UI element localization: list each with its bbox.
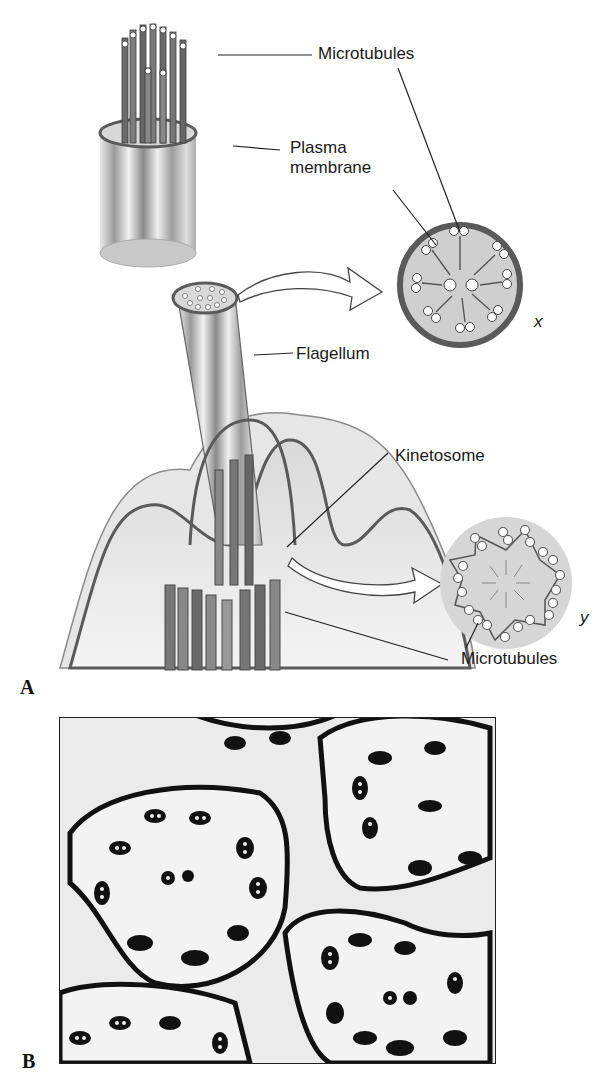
label-microtubules-bottom: Microtubules bbox=[461, 649, 557, 669]
arrow-to-x-icon bbox=[238, 268, 382, 310]
micrograph-cross-sections bbox=[60, 718, 495, 1063]
label-microtubules-top: Microtubules bbox=[318, 44, 414, 64]
label-kinetosome: Kinetosome bbox=[395, 446, 485, 466]
flagellum-cross-section-cap bbox=[173, 283, 237, 313]
label-plasma-membrane-line1: Plasma bbox=[290, 138, 347, 158]
panel-label-a: A bbox=[20, 676, 34, 699]
electron-micrograph bbox=[59, 717, 496, 1064]
label-flagellum: Flagellum bbox=[296, 344, 370, 364]
top-microtubule-bundle bbox=[122, 24, 186, 143]
label-cross-section-x: x bbox=[534, 312, 543, 332]
panel-label-b: B bbox=[22, 1050, 35, 1073]
label-cross-section-y: y bbox=[580, 608, 589, 628]
label-plasma-membrane-line2: membrane bbox=[290, 158, 371, 178]
cross-section-y bbox=[440, 517, 572, 649]
cross-section-x bbox=[400, 225, 520, 345]
